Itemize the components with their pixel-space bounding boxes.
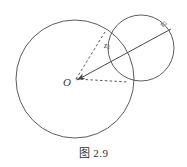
z1-subscript: 1: [107, 44, 110, 50]
z2-vector-arrow: [77, 29, 171, 80]
figure-caption: 图2.9: [0, 144, 187, 160]
figure-container: O z1 z2 图2.9: [0, 0, 187, 167]
caption-prefix: 图: [79, 147, 91, 159]
large-circle: [16, 20, 134, 138]
z1-label: z1: [104, 42, 110, 51]
origin-label: O: [63, 77, 71, 88]
dashed-radius-lower: [76, 79, 128, 82]
caption-number: 2.9: [93, 147, 108, 159]
dashed-radius-upper: [76, 32, 105, 79]
